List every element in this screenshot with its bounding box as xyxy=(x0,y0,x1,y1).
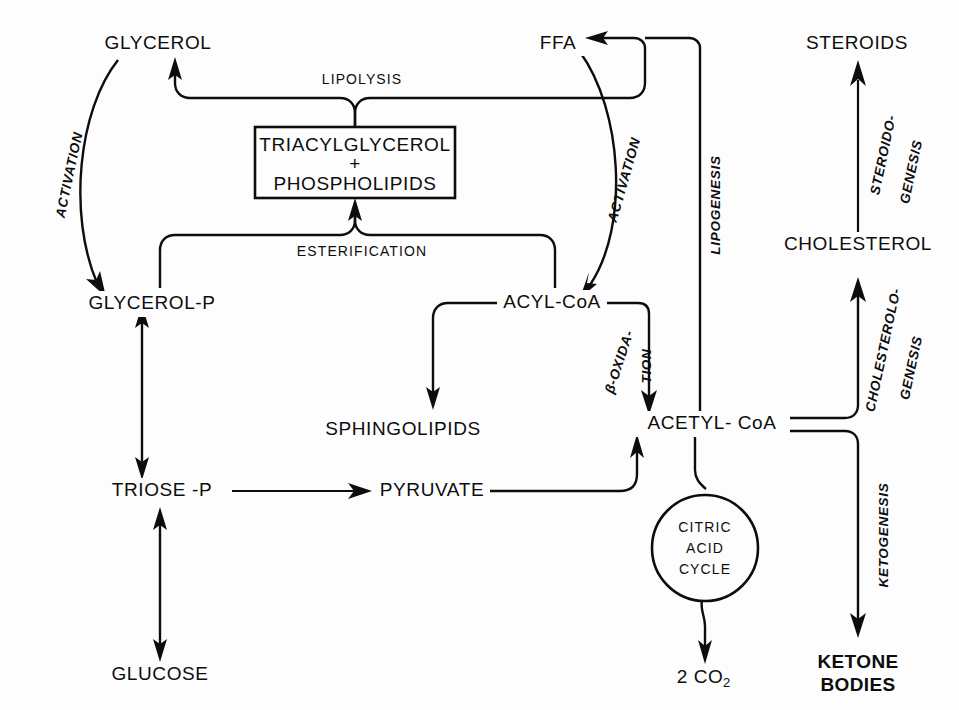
ketogenesis-label: KETOGENESIS xyxy=(876,483,891,588)
node-cholesterol: CHOLESTEROL xyxy=(784,233,932,254)
acetylcoa-ketone-path xyxy=(787,431,858,620)
node-steroids: STEROIDS xyxy=(806,32,908,53)
pyruvate-acetylcoa-path xyxy=(490,450,637,491)
node-sphingolipids: SPHINGOLIPIDS xyxy=(325,418,481,439)
steroidogenesis-label-line1: STEROIDO- xyxy=(867,113,899,196)
activation-right-path xyxy=(580,52,616,285)
node-phospholipids: PHOSPHOLIPIDS xyxy=(273,173,436,194)
steroidogenesis-label-line2: GENESIS xyxy=(897,138,925,205)
node-co2-subscript: 2 xyxy=(723,675,731,690)
node-pyruvate: PYRUVATE xyxy=(380,479,484,500)
pathway-diagram: LIPOLYSIS ESTERIFICATION ACTIVATION ACTI… xyxy=(0,0,959,710)
node-glycerol: GLYCEROL xyxy=(105,32,212,53)
lipolysis-label: LIPOLYSIS xyxy=(322,71,402,87)
esterification-label: ESTERIFICATION xyxy=(297,243,427,259)
node-triose-p: TRIOSE -P xyxy=(112,479,212,500)
node-ketone-bodies-line1: KETONE xyxy=(817,651,898,672)
node-ketone-bodies-line2: BODIES xyxy=(820,674,895,695)
cycle-to-co2-path xyxy=(702,600,705,648)
activation-left-path xyxy=(80,60,118,283)
node-glycerol-p: GLYCEROL-P xyxy=(88,292,215,313)
node-glucose: GLUCOSE xyxy=(111,663,208,684)
acetylcoa-to-cycle-path xyxy=(695,437,706,489)
citric-acid-cycle-label-line2: ACID xyxy=(686,540,724,556)
activation-right-label: ACTIVATION xyxy=(605,136,644,225)
acetylcoa-cholesterol-path xyxy=(787,295,858,418)
node-co2: 2 CO xyxy=(677,666,724,687)
citric-acid-cycle-label-line3: CYCLE xyxy=(679,561,731,577)
citric-acid-cycle-label-line1: CITRIC xyxy=(678,519,731,535)
node-acetyl-coa: ACETYL- CoA xyxy=(647,412,776,433)
beta-oxidation-label-line2: TION xyxy=(639,348,654,383)
cholesterologenesis-label-line2: GENESIS xyxy=(897,334,925,401)
node-plus-sign: + xyxy=(349,153,361,174)
node-acyl-coa: ACYL-CoA xyxy=(503,291,601,312)
acyl-coa-to-sphingolipids-path xyxy=(433,303,505,395)
node-ffa: FFA xyxy=(540,32,577,53)
pathway-canvas: LIPOLYSIS ESTERIFICATION ACTIVATION ACTI… xyxy=(0,0,959,710)
lipogenesis-label: LIPOGENESIS xyxy=(708,155,723,254)
beta-oxidation-label-line1: β-OXIDA- xyxy=(602,328,637,396)
node-triacylglycerol: TRIACYLGLYCEROL xyxy=(259,134,450,155)
